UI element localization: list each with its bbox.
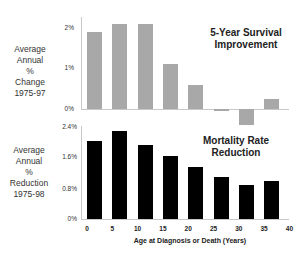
ylabel-line: % [2, 66, 58, 77]
top-chart-title: 5-Year Survival Improvement [196, 27, 296, 51]
ylabel-line: Annual [0, 156, 58, 167]
bottom-tick-2.4: 2.4% [55, 123, 77, 130]
bar [112, 24, 127, 109]
ylabel-line: % [0, 167, 58, 178]
bar [188, 85, 203, 109]
bar [264, 181, 279, 219]
x-tick-label: 0 [79, 225, 95, 232]
bottom-tick-1.6: 1.6% [55, 153, 77, 160]
x-axis-label: Age at Diagnosis or Death (Years) [100, 237, 280, 244]
x-tick-label: 20 [180, 225, 196, 232]
bar [214, 177, 229, 219]
bar [163, 64, 178, 109]
bar [239, 185, 254, 219]
x-tick-label: 30 [231, 225, 247, 232]
ylabel-line: 1975-98 [0, 189, 58, 200]
bottom-tick-0.8: 0.8% [55, 185, 77, 192]
bar [87, 141, 102, 219]
ylabel-line: Change [2, 77, 58, 88]
top-tick-1: 1% [52, 64, 74, 71]
top-y-axis [81, 17, 82, 110]
bar [138, 24, 153, 109]
bottom-tick-0: 0% [55, 215, 77, 222]
top-tick-2: 2% [52, 24, 74, 31]
x-tick-label: 40 [281, 225, 297, 232]
bar [163, 156, 178, 219]
top-x-axis [81, 109, 289, 110]
x-tick-label: 35 [256, 225, 272, 232]
bar [87, 32, 102, 109]
title-line: Improvement [196, 39, 296, 51]
ylabel-line: 1975-97 [2, 88, 58, 99]
bottom-x-axis [81, 219, 289, 220]
bar [239, 109, 254, 125]
x-tick-label: 25 [206, 225, 222, 232]
title-line: Mortality Rate [186, 135, 286, 147]
ylabel-line: Average [2, 44, 58, 55]
title-line: 5-Year Survival [196, 27, 296, 39]
top-tick-0: 0% [52, 105, 74, 112]
x-tick-label: 10 [130, 225, 146, 232]
bottom-y-axis-label: Average Annual % Reduction 1975-98 [0, 145, 58, 200]
x-tick-label: 5 [104, 225, 120, 232]
bottom-y-axis [81, 126, 82, 220]
title-line: Reduction [186, 147, 286, 159]
bar [138, 145, 153, 219]
ylabel-line: Annual [2, 55, 58, 66]
bar [214, 109, 229, 111]
bar [264, 99, 279, 109]
ylabel-line: Reduction [0, 178, 58, 189]
x-tick-label: 15 [155, 225, 171, 232]
bottom-chart-title: Mortality Rate Reduction [186, 135, 286, 159]
bar [188, 167, 203, 219]
bar [112, 131, 127, 219]
ylabel-line: Average [0, 145, 58, 156]
top-y-axis-label: Average Annual % Change 1975-97 [2, 44, 58, 99]
